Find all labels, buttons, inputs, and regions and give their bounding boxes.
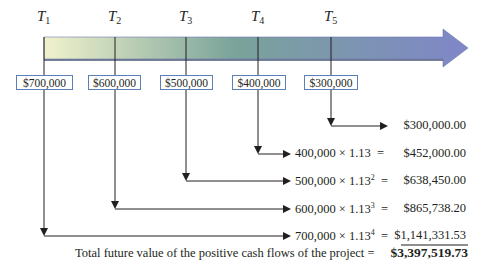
- cash-flow-box-t5: $300,000: [304, 75, 358, 90]
- period-label-t1: T1: [37, 8, 50, 26]
- future-value-t5: $300,000.00: [356, 118, 466, 133]
- cash-flow-box-t1: $700,000: [16, 75, 73, 90]
- period-label-t4: T4: [251, 8, 264, 26]
- future-value-t4: $452,000.00: [356, 146, 466, 161]
- cash-flow-box-t2: $600,000: [88, 75, 141, 90]
- period-label-t3: T3: [179, 8, 192, 26]
- period-label-t2: T2: [108, 8, 121, 26]
- future-value-t2: $865,738.20: [356, 201, 466, 216]
- period-label-t5: T5: [324, 8, 337, 26]
- total-value: $3,397,519.73: [348, 245, 468, 261]
- future-value-t1: $1,141,331.53: [356, 228, 466, 243]
- cash-flow-box-t3: $500,000: [160, 75, 213, 90]
- total-label: Total future value of the positive cash …: [75, 246, 375, 261]
- cash-flow-box-t4: $400,000: [232, 75, 286, 90]
- future-value-t3: $638,450.00: [356, 173, 466, 188]
